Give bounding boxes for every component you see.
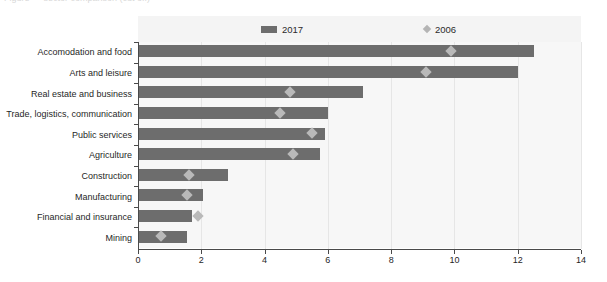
y-axis-label: Real estate and business [0, 89, 132, 99]
x-axis-label: 12 [503, 255, 533, 265]
y-axis-label: Public services [0, 130, 132, 140]
bar-row [138, 207, 581, 228]
chart-figure: Figure — sector comparison (cut off) 201… [0, 0, 607, 282]
y-axis-tick [134, 145, 138, 146]
x-axis-tick [391, 250, 392, 254]
y-axis-tick [134, 227, 138, 228]
legend-label-2017: 2017 [282, 24, 303, 35]
bar-row [138, 227, 581, 248]
y-axis-label: Agriculture [0, 150, 132, 160]
bar-row [138, 145, 581, 166]
y-axis-tick [134, 166, 138, 167]
bar-2017 [138, 189, 203, 201]
bar-2017 [138, 107, 328, 119]
x-axis-label: 4 [250, 255, 280, 265]
bar-2017 [138, 66, 518, 78]
legend-item-2017: 2017 [261, 22, 303, 36]
x-axis-tick [581, 250, 582, 254]
y-axis-tick [134, 124, 138, 125]
top-caption-sliver: Figure — sector comparison (cut off) [4, 0, 304, 3]
gridline [581, 42, 582, 249]
x-axis-label: 2 [186, 255, 216, 265]
y-axis-tick [134, 42, 138, 43]
bar-2017 [138, 128, 325, 140]
y-axis-label: Trade, logistics, communication [0, 109, 132, 119]
x-axis-label: 0 [123, 255, 153, 265]
x-axis-tick [201, 250, 202, 254]
chart-legend: 2017 2006 [138, 16, 581, 42]
y-axis-tick [134, 63, 138, 64]
y-axis-tick [134, 207, 138, 208]
y-axis-label: Construction [0, 171, 132, 181]
y-axis-label: Manufacturing [0, 192, 132, 202]
x-axis-label: 14 [566, 255, 596, 265]
bar-row [138, 166, 581, 187]
x-axis-label: 10 [439, 255, 469, 265]
y-axis-label: Mining [0, 233, 132, 243]
bar-row [138, 63, 581, 84]
legend-diamond-swatch-icon [423, 25, 431, 33]
bar-2017 [138, 86, 363, 98]
bar-row [138, 124, 581, 145]
x-axis-line [138, 249, 581, 250]
legend-item-2006: 2006 [424, 22, 456, 36]
legend-label-2006: 2006 [435, 24, 456, 35]
bar-2017 [138, 210, 192, 222]
y-axis-tick [134, 83, 138, 84]
legend-bar-swatch-icon [261, 26, 277, 33]
bar-row [138, 83, 581, 104]
bar-row [138, 186, 581, 207]
x-axis-tick [328, 250, 329, 254]
y-axis-tick [134, 104, 138, 105]
bar-row [138, 42, 581, 63]
y-axis-tick [134, 186, 138, 187]
bar-row [138, 104, 581, 125]
x-axis-tick [518, 250, 519, 254]
x-axis-label: 8 [376, 255, 406, 265]
marker-2006 [192, 210, 203, 221]
x-axis-label: 6 [313, 255, 343, 265]
y-axis-label: Financial and insurance [0, 212, 132, 222]
x-axis-tick [138, 250, 139, 254]
y-axis-label: Arts and leisure [0, 68, 132, 78]
bar-2017 [138, 45, 534, 57]
bars-layer [138, 42, 581, 248]
y-axis-label: Accomodation and food [0, 47, 132, 57]
x-axis-tick [265, 250, 266, 254]
x-axis-tick [454, 250, 455, 254]
y-axis-line [138, 42, 139, 249]
